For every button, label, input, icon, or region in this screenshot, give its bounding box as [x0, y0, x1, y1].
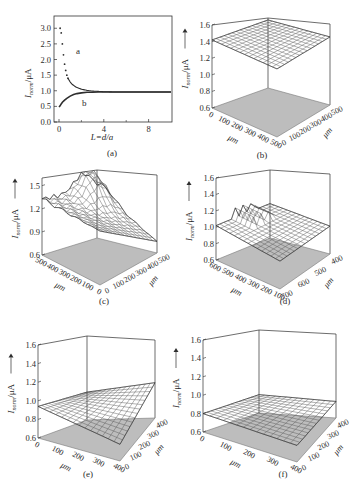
panel-a-caption: (a): [107, 148, 117, 158]
svg-text:Inorm/μA: Inorm/μA: [180, 59, 191, 90]
panel-b-surface-plot: 0.60.81.01.21.41.6Inorm/μA01002003004005…: [180, 18, 344, 160]
z-tick-label: 1.4: [25, 359, 36, 369]
y-axis-label: μm: [319, 125, 334, 140]
panel-a-series: [59, 27, 171, 107]
y-axis-label: μm: [151, 442, 166, 457]
z-tick-label: 1.0: [199, 70, 210, 80]
z-tick-label: 1.6: [25, 340, 36, 350]
y-tick-label: 0: [103, 286, 110, 296]
panel-c-surface-plot: 0.60.91.21.5Inorm/μA5004003002001000μm01…: [10, 170, 171, 306]
y-tick-label: 0.5: [40, 101, 51, 111]
panel-caption: (c): [99, 296, 109, 306]
z-axis-label: Inorm/μA: [180, 29, 191, 90]
y-axis-label: μm: [330, 442, 345, 457]
y-tick-label: 500: [313, 265, 328, 278]
y-tick-label: 400: [330, 253, 345, 266]
x-tick-label: 0: [57, 124, 61, 134]
x-tick-label: 300: [91, 455, 106, 469]
panel-caption: (b): [257, 150, 268, 160]
x-axis-label: μm: [53, 279, 68, 293]
y-tick-label: 500: [157, 252, 172, 265]
x-axis-label: μm: [228, 456, 243, 470]
z-tick-label: 0.8: [25, 414, 36, 424]
x-axis-label: μm: [226, 132, 241, 146]
svg-text:Inorm/μA: Inorm/μA: [10, 209, 21, 240]
z-tick-label: 1.2: [190, 372, 201, 382]
z-tick-label: 1.2: [29, 204, 40, 214]
data-point: [63, 54, 65, 56]
x-tick-label: 200: [242, 447, 257, 461]
series-b-line: [59, 92, 171, 107]
z-tick: [38, 418, 41, 419]
z-tick-label: 1.6: [203, 173, 214, 183]
z-axis-label: Inorm/μA: [184, 181, 195, 242]
y-tick-label: 600: [296, 276, 311, 289]
z-tick-label: 0.6: [25, 433, 36, 443]
panel-a-axes-frame: [54, 16, 172, 122]
x-axis-label: μm: [58, 459, 73, 473]
z-tick-label: 0.9: [29, 227, 40, 237]
z-tick: [42, 231, 45, 232]
panel-d-surface-plot: 0.60.81.01.21.41.6Inorm/μA60050040030020…: [184, 170, 344, 306]
y-tick-label: 2.5: [40, 39, 51, 49]
z-tick: [212, 90, 215, 91]
z-tick-label: 0.8: [190, 409, 201, 419]
surface-mesh: [42, 170, 157, 241]
y-tick-label: 1.5: [40, 70, 51, 80]
floor-projection: [216, 238, 330, 289]
x-tick-label: 200: [71, 450, 86, 464]
z-tick-label: 1.2: [203, 206, 214, 216]
x-axis-label: μm: [229, 284, 244, 298]
svg-text:Inorm/μA: Inorm/μA: [6, 384, 17, 415]
panel-a-curve-b-label: b: [82, 98, 87, 108]
z-tick: [42, 208, 45, 209]
panel-caption: (f): [279, 469, 288, 479]
z-tick-label: 1.4: [190, 353, 201, 363]
box-top-edge: [42, 170, 157, 178]
x-tick-label: 300: [265, 455, 280, 469]
y-axis-label: μm: [320, 275, 335, 290]
svg-text:Inorm/μA: Inorm/μA: [171, 378, 182, 409]
panel-a-y-ticks: 0.00.51.01.52.02.53.0: [40, 23, 57, 127]
z-tick-label: 0.8: [199, 86, 210, 96]
series-a-line: [68, 78, 171, 92]
panel-f-surface-plot: 0.60.81.01.21.41.6Inorm/μA0100200300400μ…: [171, 330, 350, 479]
floor-projection: [42, 238, 157, 285]
svg-text:Inorm/μA: Inorm/μA: [23, 68, 34, 99]
z-tick: [38, 363, 41, 364]
z-tick-label: 0.6: [199, 103, 210, 113]
z-tick: [212, 74, 215, 75]
x-tick-label: 100: [50, 444, 65, 458]
z-tick: [216, 210, 219, 211]
box-top-edge: [38, 336, 155, 345]
z-axis-label: Inorm/μA: [6, 354, 17, 415]
data-point: [59, 27, 61, 29]
z-tick: [42, 185, 45, 186]
y-tick-label: 400: [155, 417, 170, 430]
svg-text:Inorm/μA: Inorm/μA: [184, 211, 195, 242]
z-tick-label: 1.6: [199, 20, 210, 30]
figure: 0.00.51.01.52.02.53.0 048 a b Inorm/μA L…: [0, 0, 364, 493]
panel-caption: (d): [280, 296, 291, 306]
data-point: [61, 43, 63, 45]
z-tick: [38, 381, 41, 382]
panel-caption: (e): [83, 469, 93, 479]
z-axis-label: Inorm/μA: [171, 348, 182, 409]
y-axis-label: μm: [145, 273, 160, 288]
data-point: [60, 32, 62, 34]
z-tick: [203, 376, 206, 377]
box-top-edge: [216, 170, 330, 178]
z-tick-label: 1.4: [203, 189, 214, 199]
z-tick: [216, 243, 219, 244]
y-tick-label: 500: [330, 104, 345, 117]
arrowhead-icon: [174, 348, 179, 352]
z-tick-label: 1.0: [25, 396, 36, 406]
data-point: [66, 74, 68, 76]
z-tick: [212, 57, 215, 58]
y-tick-label: 3.0: [40, 23, 51, 33]
panel-a-curve-a-label: a: [76, 46, 80, 56]
z-tick-label: 1.2: [25, 377, 36, 387]
z-tick-label: 1.5: [29, 181, 40, 191]
z-tick-label: 1.0: [203, 222, 214, 232]
z-tick-label: 1.4: [199, 37, 210, 47]
